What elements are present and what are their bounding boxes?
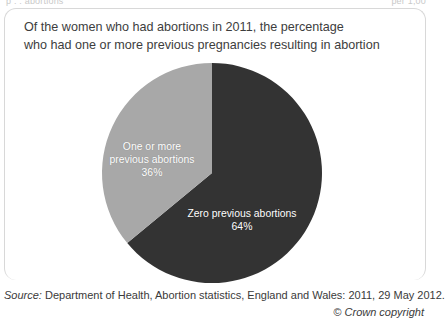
- pie-label-one-or-more-line-1: One or more: [92, 140, 212, 153]
- pie-value-zero-previous: 64%: [168, 220, 316, 233]
- pie-label-one-or-more-previous-abortions: One or more previous abortions 36%: [92, 140, 212, 180]
- copyright-note: © Crown copyright: [333, 305, 424, 319]
- pie-label-zero-previous: Zero previous abortions: [168, 207, 316, 220]
- source-citation: Department of Health, Abortion statistic…: [42, 289, 445, 301]
- pie-chart-svg: [0, 0, 430, 290]
- pie-value-one-or-more: 36%: [92, 166, 212, 179]
- source-label: Source:: [4, 289, 42, 301]
- pie-label-zero-previous-abortions: Zero previous abortions 64%: [168, 207, 316, 233]
- source-note: Source: Department of Health, Abortion s…: [4, 288, 445, 302]
- pie-label-one-or-more-line-2: previous abortions: [92, 153, 212, 166]
- pie-chart: One or more previous abortions 36% Zero …: [0, 0, 430, 290]
